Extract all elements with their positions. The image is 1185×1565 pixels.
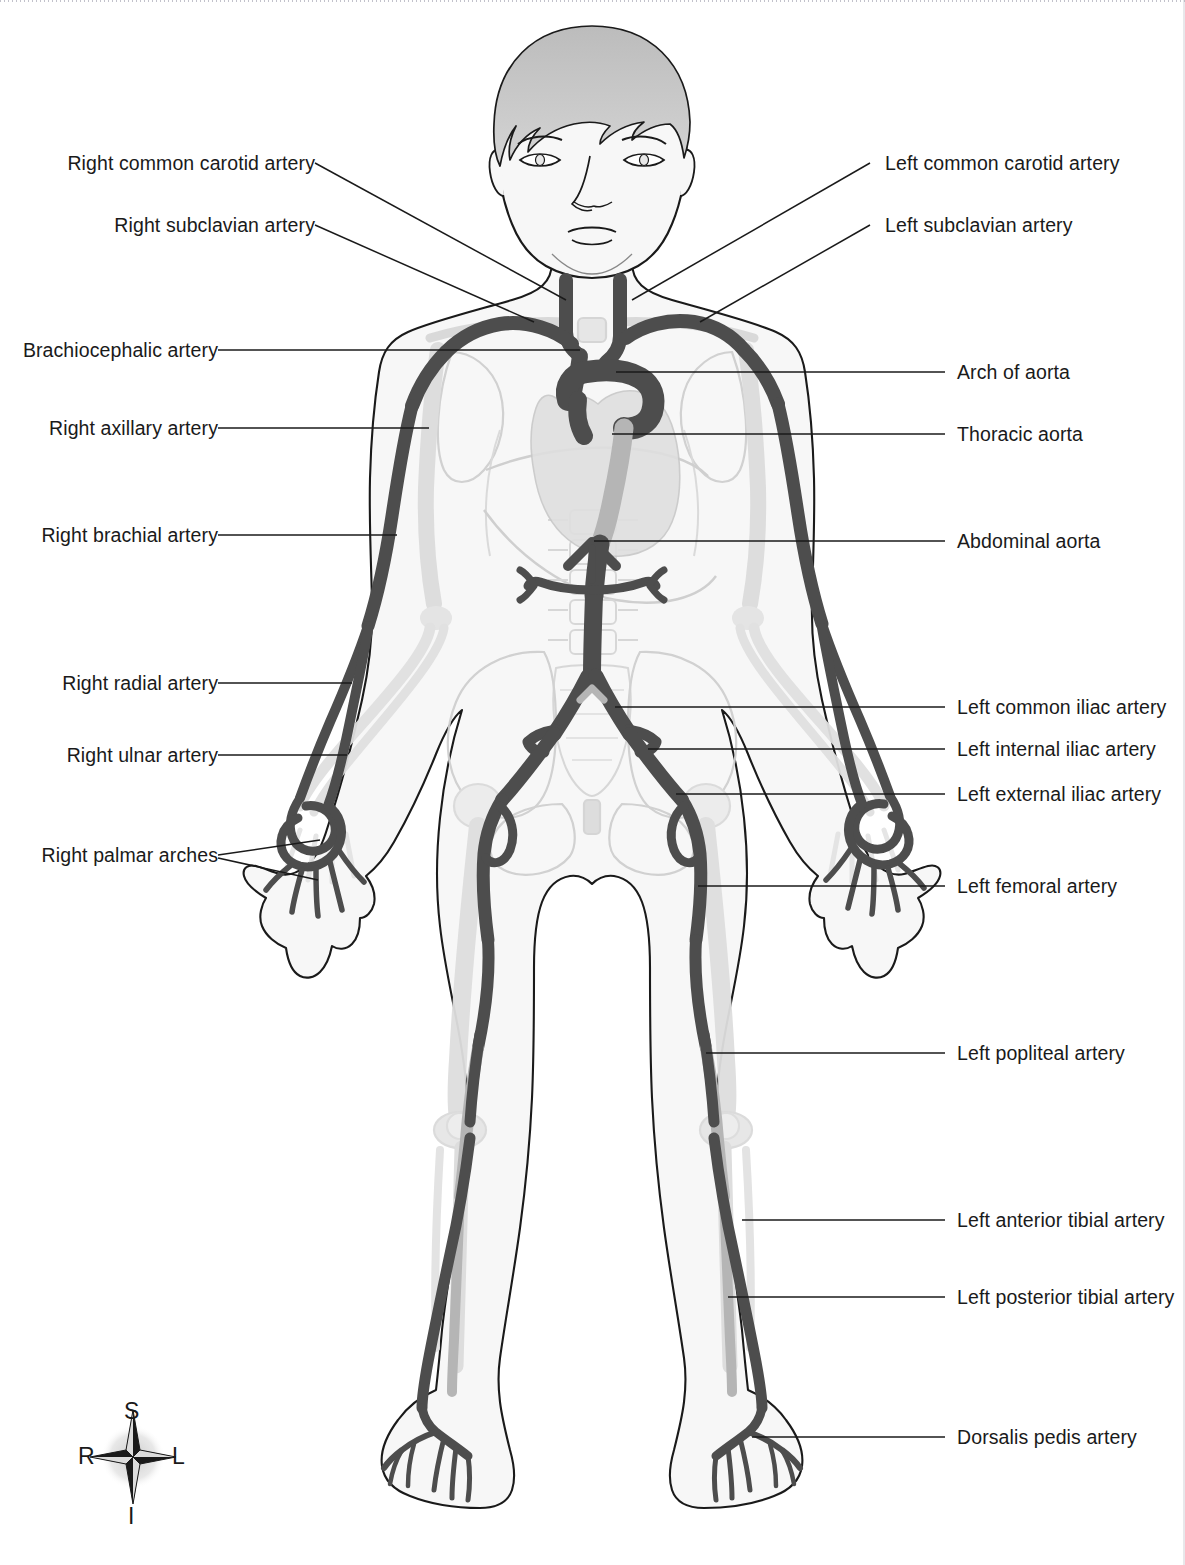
label-left-subclavian-artery: Left subclavian artery [885, 216, 1073, 236]
label-right-common-carotid-artery: Right common carotid artery [67, 154, 315, 174]
label-left-posterior-tibial-artery: Left posterior tibial artery [957, 1288, 1174, 1308]
label-abdominal-aorta: Abdominal aorta [957, 532, 1101, 552]
compass-label-superior: S [124, 1400, 139, 1423]
leader-right-subclavian [315, 225, 534, 322]
artery-abdominal-aorta [592, 596, 594, 676]
label-right-radial-artery: Right radial artery [62, 674, 218, 694]
label-right-axillary-artery: Right axillary artery [49, 419, 218, 439]
artery-ascending-aorta [577, 400, 584, 436]
head [489, 26, 694, 278]
label-right-ulnar-artery: Right ulnar artery [67, 746, 218, 766]
label-dorsalis-pedis-artery: Dorsalis pedis artery [957, 1428, 1137, 1448]
orientation-compass [90, 1410, 176, 1504]
label-right-brachial-artery: Right brachial artery [41, 526, 218, 546]
leader-left-subclavian [700, 225, 870, 322]
label-right-subclavian-artery: Right subclavian artery [114, 216, 315, 236]
figure-page: Right common carotid artery Right subcla… [0, 0, 1185, 1565]
label-brachiocephalic-artery: Brachiocephalic artery [23, 341, 218, 361]
compass-label-right: R [78, 1445, 95, 1468]
label-left-internal-iliac-artery: Left internal iliac artery [957, 740, 1156, 760]
label-thoracic-aorta: Thoracic aorta [957, 425, 1083, 445]
label-left-popliteal-artery: Left popliteal artery [957, 1044, 1125, 1064]
label-left-femoral-artery: Left femoral artery [957, 877, 1117, 897]
compass-label-inferior: I [128, 1505, 134, 1528]
compass-label-left: L [172, 1445, 185, 1468]
label-arch-of-aorta: Arch of aorta [957, 363, 1070, 383]
label-left-common-carotid-artery: Left common carotid artery [885, 154, 1120, 174]
label-left-external-iliac-artery: Left external iliac artery [957, 785, 1161, 805]
label-left-common-iliac-artery: Left common iliac artery [957, 698, 1166, 718]
label-right-palmar-arches: Right palmar arches [42, 846, 218, 866]
label-left-anterior-tibial-artery: Left anterior tibial artery [957, 1211, 1165, 1231]
